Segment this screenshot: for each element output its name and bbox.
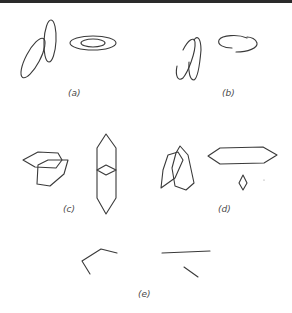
panel-e	[82, 249, 210, 277]
panel-a	[16, 20, 116, 81]
panel-b-broken-ellipse-left	[176, 39, 195, 79]
panel-e-fragment-angle	[82, 249, 117, 274]
panel-c-hexagon-lower	[37, 160, 68, 186]
panel-d	[161, 146, 277, 190]
panel-d-speck	[263, 179, 264, 180]
panel-c-label: (c)	[63, 204, 75, 214]
panel-c-vertical-hexagon	[97, 134, 116, 214]
panel-b-broken-horizontal-ellipse-bottom	[236, 37, 257, 52]
panel-d-horizontal-hexagon	[208, 147, 277, 164]
panel-b	[176, 36, 257, 80]
panel-a-outer-ellipse	[70, 36, 116, 50]
panel-b-label: (b)	[222, 88, 235, 98]
panel-a-label: (a)	[68, 88, 81, 98]
panel-a-inner-ellipse	[81, 39, 105, 47]
panel-c-inner-diamond	[97, 165, 116, 175]
panel-d-small-diamond	[239, 175, 247, 190]
figure-canvas	[0, 0, 292, 313]
panel-e-label: (e)	[138, 289, 151, 299]
panel-b-broken-horizontal-ellipse-top	[219, 36, 247, 48]
panel-e-fragment-short-diagonal	[184, 267, 198, 277]
panel-d-label: (d)	[218, 204, 231, 214]
panel-c	[23, 134, 116, 214]
panel-e-fragment-long-line	[162, 251, 210, 253]
panel-a-tilted-ellipse-left	[16, 35, 49, 80]
